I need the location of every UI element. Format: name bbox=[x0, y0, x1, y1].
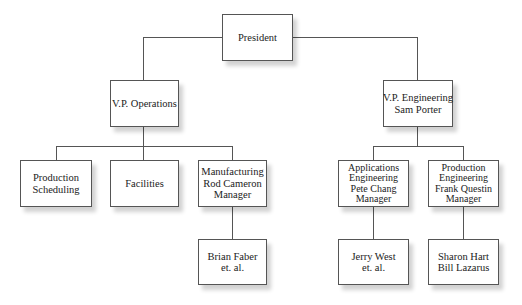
connector-to-vp-engineering bbox=[417, 37, 418, 81]
production-scheduling-line1: Production bbox=[33, 172, 79, 184]
connector-vp-operations-down bbox=[143, 127, 144, 147]
connector-to-manufacturing bbox=[232, 146, 233, 161]
connector-production-eng-to-staff bbox=[463, 206, 464, 240]
connector-engineering-horizontal bbox=[373, 146, 464, 147]
president-title: President bbox=[238, 32, 277, 44]
manufacturing-manager-name: Rod Cameron bbox=[203, 178, 262, 190]
production-scheduling-line2: Scheduling bbox=[32, 184, 79, 196]
production-eng-staff-line1: Sharon Hart bbox=[438, 251, 489, 263]
vp-operations-box: V.P. Operations bbox=[110, 80, 179, 127]
facilities-title: Facilities bbox=[125, 178, 164, 190]
president-box: President bbox=[222, 14, 293, 61]
manufacturing-title: Manufacturing bbox=[201, 166, 263, 178]
connector-vp-engineering-down bbox=[417, 126, 418, 147]
applications-engineering-line2: Engineering bbox=[349, 173, 398, 184]
production-eng-staff-box: Sharon Hart Bill Lazarus bbox=[428, 239, 499, 285]
applications-staff-box: Jerry West et. al. bbox=[338, 239, 409, 285]
connector-to-production-scheduling bbox=[56, 146, 57, 161]
connector-to-production-engineering bbox=[463, 146, 464, 161]
vp-engineering-title: V.P. Engineering bbox=[383, 92, 453, 104]
applications-staff-line2: et. al. bbox=[362, 262, 385, 274]
production-scheduling-box: Production Scheduling bbox=[20, 160, 92, 207]
applications-staff-line1: Jerry West bbox=[351, 251, 395, 263]
production-engineering-box: Production Engineering Frank Questin Man… bbox=[428, 160, 499, 207]
manufacturing-staff-line2: et. al. bbox=[221, 262, 244, 274]
vp-engineering-box: V.P. Engineering Sam Porter bbox=[383, 80, 453, 127]
connector-to-applications-engineering bbox=[373, 146, 374, 161]
connector-applications-to-staff bbox=[373, 206, 374, 240]
connector-to-facilities bbox=[143, 146, 144, 161]
manufacturing-staff-box: Brian Faber et. al. bbox=[198, 239, 267, 285]
connector-operations-horizontal bbox=[56, 146, 233, 147]
facilities-box: Facilities bbox=[110, 160, 179, 207]
production-eng-staff-line2: Bill Lazarus bbox=[438, 262, 490, 274]
vp-engineering-name: Sam Porter bbox=[395, 104, 442, 116]
connector-to-vp-operations bbox=[143, 37, 144, 81]
manufacturing-role: Manager bbox=[214, 189, 251, 201]
applications-engineering-box: Applications Engineering Pete Chang Mana… bbox=[338, 160, 409, 207]
connector-manufacturing-to-staff bbox=[232, 206, 233, 240]
applications-engineering-role: Manager bbox=[356, 194, 392, 205]
production-engineering-role: Manager bbox=[446, 194, 482, 205]
manufacturing-staff-line1: Brian Faber bbox=[208, 251, 258, 263]
vp-operations-title: V.P. Operations bbox=[112, 98, 177, 110]
production-engineering-line2: Engineering bbox=[439, 173, 488, 184]
manufacturing-box: Manufacturing Rod Cameron Manager bbox=[198, 160, 267, 207]
